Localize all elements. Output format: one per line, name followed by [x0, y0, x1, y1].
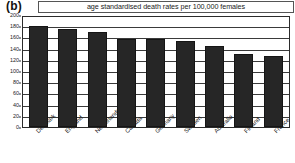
- chart-title: age standardised death rates per 100,000…: [87, 3, 245, 11]
- y-tick-mark: [19, 94, 21, 95]
- y-tick-label: 160: [10, 36, 19, 41]
- x-tick-slot: England: [52, 128, 82, 163]
- y-tick-label: 180: [10, 24, 19, 29]
- y-tick-mark: [19, 49, 21, 50]
- chart-title-box: age standardised death rates per 100,000…: [38, 1, 294, 13]
- y-tick-mark: [19, 105, 21, 106]
- bar-finland: [234, 54, 253, 127]
- bar-netherlands: [88, 32, 107, 127]
- x-axis: DenmarkEnglandNetherlandsCanadaGermanySw…: [22, 128, 290, 163]
- bar-series: [23, 17, 289, 127]
- y-tick-mark: [19, 27, 21, 28]
- x-tick-slot: Finland: [230, 128, 260, 163]
- x-tick-slot: Denmark: [22, 128, 52, 163]
- figure-panel-b: (b) 020406080100120140160180200 age stan…: [0, 0, 295, 163]
- y-tick-mark: [19, 83, 21, 84]
- y-tick-mark: [19, 72, 21, 73]
- plot-area: [22, 16, 290, 128]
- bar-france: [264, 56, 283, 127]
- x-tick-slot: France: [260, 128, 290, 163]
- x-tick-slot: Sweden: [171, 128, 201, 163]
- y-tick-mark: [19, 116, 21, 117]
- y-tick-label: 200: [10, 13, 19, 18]
- x-tick-slot: Netherlands: [82, 128, 112, 163]
- y-axis: 020406080100120140160180200: [0, 11, 21, 129]
- y-tick-mark: [19, 16, 21, 17]
- y-tick-label: 120: [10, 58, 19, 63]
- bar-australia: [205, 46, 224, 127]
- bar-england: [58, 29, 77, 127]
- x-tick-slot: Australia: [201, 128, 231, 163]
- y-tick-mark: [19, 128, 21, 129]
- bar-denmark: [29, 26, 48, 127]
- y-tick-label: 100: [10, 69, 19, 74]
- x-tick-slot: Germany: [141, 128, 171, 163]
- x-tick-slot: Canada: [111, 128, 141, 163]
- y-tick-label: 140: [10, 47, 19, 52]
- bar-germany: [146, 39, 165, 127]
- y-tick-mark: [19, 38, 21, 39]
- y-tick-mark: [19, 60, 21, 61]
- bar-sweden: [176, 41, 195, 127]
- bar-canada: [117, 39, 136, 127]
